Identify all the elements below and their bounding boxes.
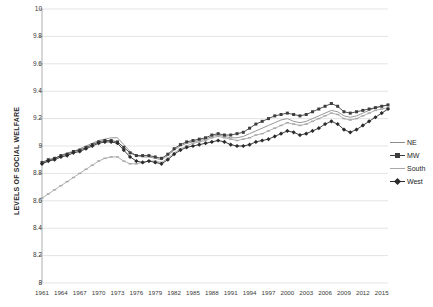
- series-south: [40, 107, 389, 199]
- data-point: [310, 129, 314, 133]
- data-point: [342, 110, 345, 113]
- data-point: [304, 132, 308, 136]
- y-tick-label: 9.4: [16, 88, 42, 95]
- data-point: [110, 156, 113, 157]
- data-point: [323, 115, 326, 116]
- data-point: [141, 154, 144, 157]
- data-point: [348, 130, 352, 134]
- data-point: [216, 138, 220, 142]
- legend-item-south[interactable]: South: [390, 162, 433, 175]
- data-point: [147, 154, 150, 157]
- y-tick-label: 8: [16, 280, 42, 287]
- chart-legend: NEMWSouthWest: [390, 136, 433, 188]
- data-point: [349, 112, 352, 115]
- data-point: [47, 193, 50, 194]
- data-point: [122, 160, 125, 161]
- data-point: [267, 117, 270, 120]
- data-point: [154, 155, 157, 158]
- line-chart: LEVELS OF SOCIAL WELFARE 109.89.69.49.29…: [0, 0, 433, 307]
- data-point: [210, 134, 213, 137]
- data-point: [305, 113, 308, 116]
- data-point: [279, 132, 283, 136]
- data-point: [342, 118, 345, 119]
- data-point: [91, 164, 94, 165]
- data-point: [191, 143, 194, 144]
- legend-item-ne[interactable]: NE: [390, 136, 433, 149]
- series-line: [42, 108, 388, 198]
- data-point: [242, 138, 245, 139]
- data-point: [160, 157, 163, 160]
- data-point: [198, 141, 201, 142]
- legend-item-west[interactable]: West: [390, 175, 433, 188]
- y-tick-label: 9: [16, 143, 42, 150]
- x-tick-label: 2015: [371, 290, 393, 296]
- data-point: [248, 127, 251, 130]
- data-point: [324, 105, 327, 108]
- data-point: [229, 138, 232, 139]
- data-point: [380, 105, 383, 108]
- data-point: [266, 137, 270, 141]
- data-point: [210, 140, 214, 144]
- y-axis-tick-labels: 109.89.69.49.298.88.68.48.28: [0, 0, 42, 307]
- data-point: [292, 123, 295, 124]
- y-tick-label: 8.4: [16, 225, 42, 232]
- y-tick-label: 10: [16, 6, 42, 13]
- data-point: [273, 127, 276, 128]
- data-point: [229, 134, 232, 137]
- data-point: [361, 115, 364, 116]
- data-point: [261, 120, 264, 123]
- legend-label: West: [405, 178, 423, 185]
- data-point: [103, 158, 106, 159]
- data-point: [298, 114, 301, 117]
- data-point: [285, 129, 289, 133]
- data-point: [355, 118, 358, 119]
- y-tick-label: 8.8: [16, 170, 42, 177]
- data-point: [53, 189, 56, 190]
- data-point: [235, 144, 239, 148]
- data-point: [179, 143, 182, 146]
- data-point: [204, 140, 207, 141]
- data-point: [329, 119, 333, 123]
- legend-item-mw[interactable]: MW: [390, 149, 433, 162]
- data-point: [241, 144, 245, 148]
- data-point: [141, 160, 145, 164]
- data-point: [78, 173, 81, 174]
- data-point: [286, 122, 289, 123]
- data-point: [298, 125, 301, 126]
- data-point: [279, 125, 282, 126]
- data-point: [222, 140, 226, 144]
- legend-label: NE: [405, 139, 417, 146]
- data-point: [273, 114, 276, 117]
- legend-swatch-icon: [390, 177, 405, 186]
- data-point: [147, 159, 151, 163]
- data-point: [361, 109, 364, 112]
- data-point: [267, 130, 270, 131]
- data-point: [254, 123, 257, 126]
- series-west: [40, 107, 390, 166]
- data-point: [380, 108, 383, 109]
- y-tick-label: 9.8: [16, 33, 42, 40]
- data-point: [210, 137, 213, 138]
- data-point: [185, 140, 188, 143]
- data-point: [292, 130, 296, 134]
- data-point: [116, 156, 119, 157]
- y-tick-label: 9.6: [16, 61, 42, 68]
- data-point: [330, 102, 333, 105]
- data-point: [298, 133, 302, 137]
- y-tick-label: 8.2: [16, 252, 42, 259]
- data-point: [173, 147, 176, 150]
- plot-area: [0, 0, 433, 307]
- data-point: [236, 132, 239, 135]
- data-point: [166, 153, 169, 156]
- data-point: [317, 108, 320, 111]
- data-point: [317, 118, 320, 119]
- data-point: [280, 113, 283, 116]
- data-point: [374, 106, 377, 109]
- data-point: [387, 103, 390, 106]
- data-point: [336, 114, 339, 115]
- y-tick-label: 8.6: [16, 198, 42, 205]
- data-point: [336, 105, 339, 108]
- legend-swatch-icon: [390, 164, 405, 173]
- series-line: [42, 104, 388, 163]
- data-point: [135, 154, 138, 157]
